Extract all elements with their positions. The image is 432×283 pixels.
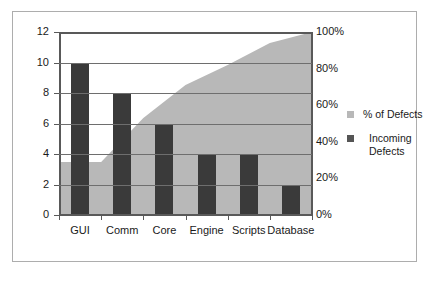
plot-top-rule [59, 32, 313, 34]
gridline [59, 154, 312, 155]
legend-swatch-incoming-defects [347, 135, 354, 142]
y-axis-tick [54, 185, 59, 186]
legend-item-incoming-defects: Incoming Defects [347, 132, 432, 157]
gridline [59, 63, 312, 64]
y-axis-label: 10 [13, 57, 49, 68]
y-axis-tick [54, 124, 59, 125]
y-axis-right-label: 0% [316, 209, 356, 220]
legend-swatch-percent-of-defects [347, 111, 354, 118]
gridline [59, 93, 312, 94]
bar-core [155, 124, 173, 216]
y-axis-right-label: 80% [316, 63, 356, 74]
x-axis-label-database: Database [264, 224, 318, 236]
chart-figure: 024681012 0%20%40%60%80%100% GUICommCore… [0, 0, 432, 283]
figure-border: 024681012 0%20%40%60%80%100% GUICommCore… [12, 11, 417, 262]
x-axis-tick [228, 215, 229, 220]
y-axis-label: 8 [13, 87, 49, 98]
y-axis-label: 12 [13, 26, 49, 37]
y-axis-right-label: 20% [316, 172, 356, 183]
gridline [59, 185, 312, 186]
x-axis-tick [59, 215, 60, 220]
y-axis-right-label: 100% [316, 26, 356, 37]
gridline [59, 124, 312, 125]
legend-label-incoming-defects-line1: Incoming [347, 132, 432, 145]
bar-database [282, 185, 300, 216]
y-axis-label: 6 [13, 118, 49, 129]
y-axis-tick [54, 93, 59, 94]
bar-gui [71, 63, 89, 216]
legend-item-percent-of-defects: % of Defects [347, 108, 432, 122]
legend-label-incoming-defects-line2: Defects [347, 145, 432, 158]
x-axis-tick [101, 215, 102, 220]
x-axis-tick [186, 215, 187, 220]
y-axis-tick [54, 32, 59, 33]
y-axis-tick [54, 63, 59, 64]
y-axis-label: 4 [13, 148, 49, 159]
chart-legend: % of Defects Incoming Defects [347, 108, 432, 167]
x-axis-tick [270, 215, 271, 220]
legend-label-percent-of-defects: % of Defects [347, 108, 432, 121]
y-axis-tick [54, 154, 59, 155]
y-axis-label: 2 [13, 179, 49, 190]
x-axis-tick [143, 215, 144, 220]
x-axis-tick [312, 215, 313, 220]
y-axis-label: 0 [13, 209, 49, 220]
